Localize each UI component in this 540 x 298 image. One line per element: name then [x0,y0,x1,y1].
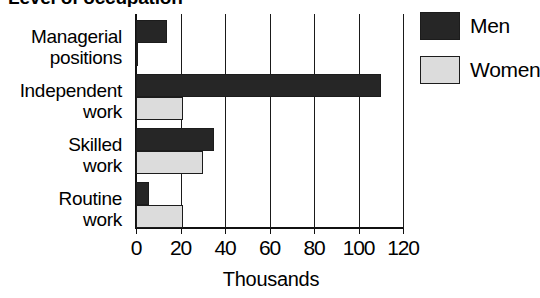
x-tick-20 [181,228,182,234]
category-label-line: Independent [0,80,122,101]
x-tick-40 [225,228,226,234]
legend-swatch-women [420,56,460,84]
legend-label-women: Women [470,56,540,84]
category-label-3: Routinework [0,188,122,230]
category-label-2: Skilledwork [0,134,122,176]
x-tick-120 [403,228,404,234]
gridline-x-80 [314,14,315,228]
chart-title: Level of occupation [8,0,308,7]
x-tick-label-80: 80 [290,236,338,260]
category-label-line: work [0,101,122,122]
category-label-1: Independentwork [0,80,122,122]
gridline-x-20 [181,14,182,228]
category-label-0: Managerialpositions [0,26,122,68]
x-tick-80 [314,228,315,234]
x-tick-label-60: 60 [246,236,294,260]
bar-men-2 [136,128,214,151]
gridline-x-60 [270,14,271,228]
x-tick-label-100: 100 [335,236,383,260]
category-label-line: work [0,209,122,230]
x-axis-caption: Thousands [136,268,406,291]
legend-item-women[interactable]: Women [420,54,526,98]
gridline-x-100 [359,14,360,228]
legend-label-men: Men [470,12,510,40]
legend-swatch-men [420,12,460,40]
category-label-line: Skilled [0,134,122,155]
x-tick-label-0: 0 [112,236,160,260]
bar-women-1 [136,97,183,120]
x-tick-label-40: 40 [201,236,249,260]
bar-women-3 [136,205,183,228]
category-label-line: Routine [0,188,122,209]
x-tick-60 [270,228,271,234]
chart-legend: MenWomen [420,10,526,98]
category-label-line: work [0,155,122,176]
bar-women-0 [136,43,138,66]
bar-men-0 [136,20,167,43]
x-tick-0 [136,228,137,234]
legend-item-men[interactable]: Men [420,10,526,54]
category-label-line: Managerial [0,26,122,47]
x-tick-100 [359,228,360,234]
x-tick-label-20: 20 [157,236,205,260]
gridline-x-120 [403,14,404,228]
plot-area: 020406080100120 [136,14,403,228]
bar-men-3 [136,182,149,205]
category-label-line: positions [0,47,122,68]
category-axis-labels: ManagerialpositionsIndependentworkSkille… [0,14,128,224]
x-tick-label-120: 120 [379,236,427,260]
bar-women-2 [136,151,203,174]
bar-men-1 [136,74,381,97]
gridline-x-40 [225,14,226,228]
